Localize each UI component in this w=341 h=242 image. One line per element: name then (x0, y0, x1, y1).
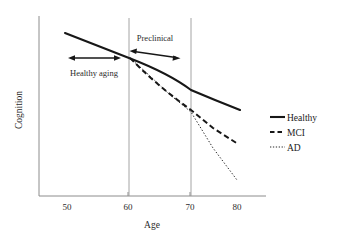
preclinical-annotation: Preclinical (130, 33, 181, 61)
x-axis-title: Age (144, 220, 160, 230)
x-tick-label-50: 50 (63, 202, 73, 212)
cognition-decline-chart: Healthy aging Preclinical 50 60 70 80 Ag… (0, 0, 341, 242)
legend-item-ad[interactable]: AD (270, 143, 301, 153)
healthy-aging-arrow-head-left (68, 55, 75, 60)
x-tick-labels: 50 60 70 80 (63, 202, 243, 212)
x-tick-label-70: 70 (186, 202, 196, 212)
x-tick-label-60: 60 (124, 202, 134, 212)
legend-label-healthy: Healthy (287, 113, 317, 123)
healthy-aging-arrow-head-right (114, 55, 121, 60)
series-line-ad (130, 58, 237, 180)
x-tick-marks (67, 192, 237, 196)
figure-container: Healthy aging Preclinical 50 60 70 80 Ag… (0, 0, 341, 242)
healthy-aging-label: Healthy aging (70, 68, 119, 78)
preclinical-arrow (134, 52, 176, 58)
x-tick-label-80: 80 (233, 202, 243, 212)
legend-item-healthy[interactable]: Healthy (270, 113, 317, 123)
legend-label-ad: AD (287, 143, 301, 153)
reference-lines-group (129, 18, 191, 196)
preclinical-label: Preclinical (137, 33, 174, 43)
healthy-aging-annotation: Healthy aging (68, 55, 121, 78)
preclinical-arrow-head-left (130, 49, 138, 54)
series-line-mci (130, 58, 238, 144)
y-axis-title: Cognition (14, 91, 24, 129)
preclinical-arrow-head-right (173, 55, 181, 60)
legend-label-mci: MCI (287, 128, 305, 138)
chart-legend: Healthy MCI AD (270, 113, 317, 153)
legend-item-mci[interactable]: MCI (270, 128, 305, 138)
